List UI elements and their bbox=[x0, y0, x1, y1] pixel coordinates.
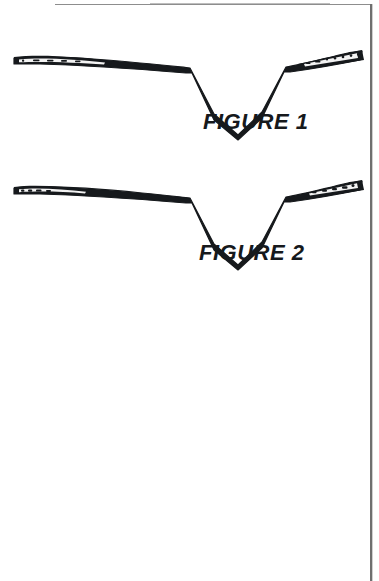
figure-2-label: FIGURE 2 bbox=[199, 240, 304, 266]
figure-1-label: FIGURE 1 bbox=[203, 109, 308, 135]
page-border-top-fade bbox=[150, 3, 330, 4]
figure-1-drawing bbox=[0, 38, 379, 148]
figure-2-drawing bbox=[0, 168, 379, 278]
page-border-top bbox=[55, 4, 371, 5]
scanned-drawing-page: FIGURE 1 FIGURE 2 bbox=[0, 0, 379, 581]
